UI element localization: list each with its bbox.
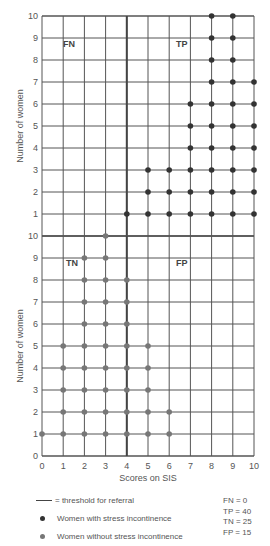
y-axis-label: Number of women — [15, 309, 25, 383]
y-tick-label: 8 — [33, 55, 38, 65]
data-point — [209, 145, 215, 151]
data-point — [230, 101, 236, 107]
x-tick-label: 4 — [124, 461, 129, 471]
y-tick-label: 0 — [33, 451, 38, 461]
data-point — [82, 431, 88, 437]
data-point — [145, 167, 151, 173]
data-point — [166, 211, 172, 217]
data-point — [103, 409, 109, 415]
data-point — [166, 431, 172, 437]
data-point — [230, 145, 236, 151]
data-point — [251, 189, 257, 195]
stat-tp: TP = 40 — [223, 507, 252, 518]
x-tick-label: 2 — [82, 461, 87, 471]
data-point — [124, 431, 130, 437]
stats-summary: FN = 0 TP = 40 TN = 25 FP = 15 — [223, 496, 252, 538]
y-tick-label: 9 — [33, 33, 38, 43]
data-point — [188, 211, 194, 217]
data-point — [230, 123, 236, 129]
x-tick-label: 5 — [145, 461, 150, 471]
quadrant-label-fn: FN — [63, 39, 75, 49]
stat-fp: FP = 15 — [223, 528, 252, 539]
data-point — [209, 167, 215, 173]
data-point — [188, 101, 194, 107]
data-point — [188, 189, 194, 195]
y-tick-label: 7 — [33, 77, 38, 87]
x-axis-label: Scores on SIS — [119, 473, 177, 483]
stat-fn: FN = 0 — [223, 496, 252, 507]
data-point — [251, 123, 257, 129]
data-point — [103, 431, 109, 437]
data-point — [60, 387, 66, 393]
data-point — [60, 365, 66, 371]
data-point — [209, 189, 215, 195]
data-point — [188, 123, 194, 129]
y-tick-label: 3 — [33, 385, 38, 395]
stat-tn: TN = 25 — [223, 517, 252, 528]
legend-threshold-label: = threshold for referral — [55, 496, 134, 505]
data-point — [209, 57, 215, 63]
data-point — [230, 13, 236, 19]
y-tick-label: 4 — [33, 143, 38, 153]
data-point — [82, 343, 88, 349]
y-tick-label: 5 — [33, 341, 38, 351]
y-tick-label: 1 — [33, 209, 38, 219]
data-point — [82, 387, 88, 393]
data-point — [124, 299, 130, 305]
data-point — [230, 167, 236, 173]
y-tick-label: 1 — [33, 429, 38, 439]
quadrant-label-tn: TN — [66, 258, 78, 268]
data-point — [124, 343, 130, 349]
y-tick-label: 7 — [33, 297, 38, 307]
data-point — [145, 189, 151, 195]
data-point — [124, 277, 130, 283]
y-tick-label: 9 — [33, 253, 38, 263]
x-tick-label: 6 — [167, 461, 172, 471]
data-point — [230, 35, 236, 41]
quadrant-label-tp: TP — [176, 39, 188, 49]
data-point — [82, 409, 88, 415]
data-point — [209, 211, 215, 217]
legend-with-si: Women with stress incontinence — [40, 514, 172, 523]
data-point — [39, 431, 45, 437]
data-point — [145, 365, 151, 371]
data-point — [124, 409, 130, 415]
x-tick-label: 8 — [209, 461, 214, 471]
data-point — [251, 211, 257, 217]
y-tick-label: 10 — [28, 231, 38, 241]
data-point — [230, 79, 236, 85]
y-tick-label: 2 — [33, 407, 38, 417]
y-axis-label: Number of women — [15, 89, 25, 163]
x-tick-label: 3 — [103, 461, 108, 471]
data-point — [82, 365, 88, 371]
dark-dot-icon — [40, 516, 45, 521]
chart-area: 12345678910Number of womenFNTP0123456789… — [0, 0, 270, 490]
gray-dot-icon — [40, 534, 45, 539]
data-point — [230, 211, 236, 217]
legend-without-si-label: Women without stress incontinence — [57, 532, 183, 541]
data-point — [209, 123, 215, 129]
data-point — [145, 211, 151, 217]
data-point — [230, 57, 236, 63]
data-point — [230, 189, 236, 195]
x-tick-label: 7 — [188, 461, 193, 471]
data-point — [166, 167, 172, 173]
data-point — [145, 387, 151, 393]
data-point — [209, 35, 215, 41]
y-tick-label: 5 — [33, 121, 38, 131]
data-point — [124, 387, 130, 393]
y-tick-label: 3 — [33, 165, 38, 175]
data-point — [209, 101, 215, 107]
x-tick-label: 10 — [249, 461, 259, 471]
data-point — [103, 255, 109, 261]
data-point — [124, 365, 130, 371]
y-tick-label: 8 — [33, 275, 38, 285]
data-point — [82, 299, 88, 305]
data-point — [103, 365, 109, 371]
data-point — [60, 343, 66, 349]
data-point — [188, 167, 194, 173]
y-tick-label: 4 — [33, 363, 38, 373]
data-point — [103, 277, 109, 283]
data-point — [103, 321, 109, 327]
data-point — [103, 387, 109, 393]
